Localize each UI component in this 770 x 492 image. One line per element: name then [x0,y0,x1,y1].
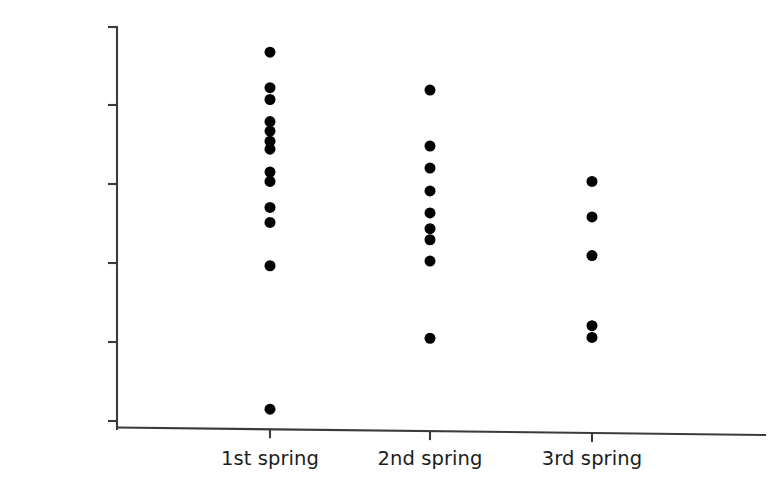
data-point [265,166,276,177]
data-point [265,126,276,137]
data-points-group [265,47,598,415]
data-point [265,217,276,228]
data-point [425,333,436,344]
data-point [587,332,598,343]
data-point [265,202,276,213]
data-point [265,116,276,127]
data-point [425,207,436,218]
data-point [425,85,436,96]
data-point [265,94,276,105]
data-point [265,82,276,93]
data-point [425,234,436,245]
data-point [265,144,276,155]
x-axis-line [117,428,765,436]
data-point [265,176,276,187]
data-point [425,185,436,196]
data-point [265,47,276,58]
y-axis-ticks [108,27,117,421]
dot-plot-chart: JuneMayAprilMarchFebruaryJanuary 1st spr… [0,0,770,492]
axes-group [108,27,765,442]
y-axis-labels: JuneMayAprilMarchFebruaryJanuary [0,0,104,492]
data-point [425,256,436,267]
data-point [587,211,598,222]
data-point [587,250,598,261]
data-point [425,163,436,174]
x-axis-ticks [270,429,592,442]
plot-area [0,0,770,492]
data-point [265,404,276,415]
data-point [265,260,276,271]
data-point [587,176,598,187]
data-point [425,223,436,234]
data-point [587,320,598,331]
data-point [425,140,436,151]
